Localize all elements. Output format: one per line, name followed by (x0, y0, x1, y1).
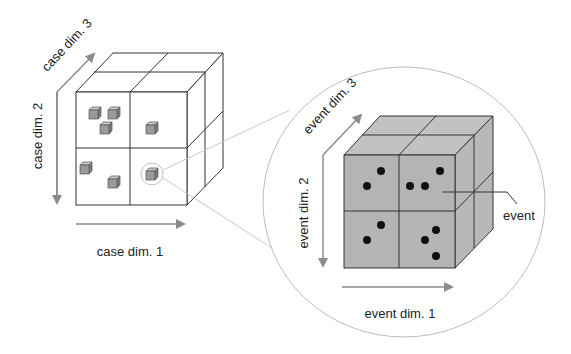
event-dot (432, 226, 440, 234)
case-dim2-label: case dim. 2 (30, 103, 45, 169)
event-dot (432, 252, 440, 260)
case-marker (89, 107, 101, 119)
event-label: event (503, 208, 535, 223)
event-dot (406, 182, 414, 190)
callout-line-lower (163, 178, 272, 248)
event-dot (363, 182, 371, 190)
case-marker (146, 122, 158, 134)
case-cube (76, 53, 223, 205)
event-dot (421, 182, 429, 190)
case-marker (108, 176, 120, 188)
event-dot (436, 167, 444, 175)
event-dot (377, 167, 385, 175)
case-marker (108, 107, 120, 119)
diagram-canvas: case dim. 1 case dim. 2 case dim. 3 (0, 0, 571, 354)
event-dot (377, 221, 385, 229)
case-dim1-label: case dim. 1 (97, 244, 163, 259)
case-marker-highlighted (146, 168, 158, 180)
case-marker (100, 122, 112, 134)
case-marker (80, 162, 92, 174)
event-dot (421, 236, 429, 244)
event-dot (363, 236, 371, 244)
event-dim2-label: event dim. 2 (296, 178, 311, 249)
event-dim1-label: event dim. 1 (365, 306, 436, 321)
case-dim3-label: case dim. 3 (39, 16, 95, 75)
